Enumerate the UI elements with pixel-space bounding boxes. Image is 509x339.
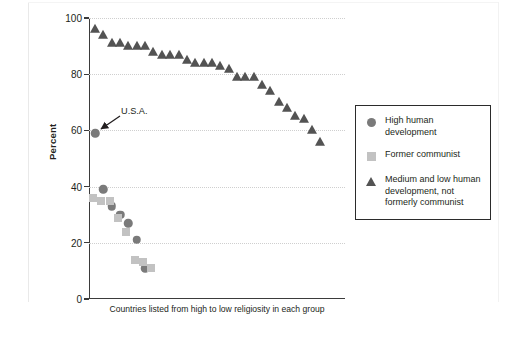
data-point (122, 228, 130, 236)
data-point (299, 114, 309, 123)
y-tick-mark (84, 242, 89, 243)
y-axis-label: Percent (47, 124, 58, 160)
figure-frame-left (28, 2, 29, 302)
figure-frame-right (498, 2, 499, 302)
y-tick-mark (84, 17, 89, 18)
chart-legend: High human development Former communist … (355, 105, 491, 220)
data-point (265, 86, 275, 95)
data-point (133, 236, 142, 245)
chart-figure: Percent 020406080100 U.S.A. Countries li… (0, 0, 509, 339)
y-tick-label: 60 (71, 125, 82, 136)
y-tick-label: 0 (76, 294, 82, 305)
y-axis-line (89, 18, 90, 299)
y-tick-label: 100 (65, 13, 82, 24)
legend-label: Former communist (385, 149, 460, 161)
data-point (139, 258, 147, 266)
legend-item-high-human-development: High human development (365, 115, 482, 138)
legend-label: Medium and low human development, not fo… (385, 174, 482, 209)
data-point (99, 185, 108, 194)
data-point (124, 219, 133, 228)
gridline (89, 18, 345, 19)
data-point (106, 197, 114, 205)
legend-item-former-communist: Former communist (365, 149, 482, 163)
y-tick-mark (84, 186, 89, 187)
x-axis-line (89, 298, 345, 299)
legend-item-medium-low-human-development: Medium and low human development, not fo… (365, 174, 482, 209)
data-point (147, 264, 155, 272)
data-point (315, 136, 325, 145)
usa-annotation-arrow (94, 112, 134, 142)
y-tick-label: 40 (71, 181, 82, 192)
y-tick-label: 20 (71, 237, 82, 248)
data-point (89, 194, 97, 202)
data-point (114, 214, 122, 222)
y-tick-mark (84, 74, 89, 75)
x-axis-caption: Countries listed from high to low religi… (89, 304, 345, 314)
legend-label: High human development (385, 115, 482, 138)
gridline (89, 74, 345, 75)
triangle-marker-icon (365, 175, 385, 188)
data-point (97, 197, 105, 205)
y-tick-label: 80 (71, 69, 82, 80)
square-marker-icon (365, 150, 385, 163)
circle-marker-icon (365, 116, 385, 129)
figure-frame-top (28, 2, 498, 3)
gridline (89, 243, 345, 244)
y-tick-mark (84, 298, 89, 299)
plot-area: 020406080100 U.S.A. (89, 18, 345, 299)
gridline (89, 187, 345, 188)
data-point (307, 125, 317, 134)
data-point (131, 256, 139, 264)
y-tick-mark (84, 130, 89, 131)
